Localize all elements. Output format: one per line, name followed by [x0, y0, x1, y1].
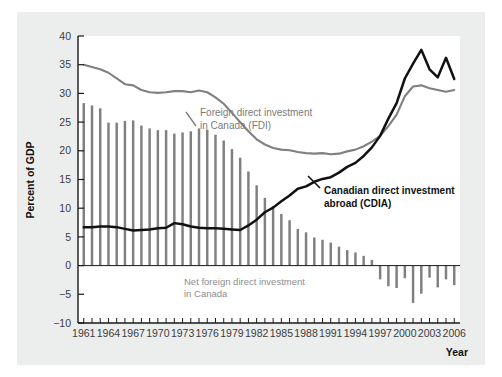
y-axis-tick-label: 35 — [59, 58, 71, 70]
net-fdi-bar — [115, 123, 117, 266]
net-fdi-bar — [330, 243, 332, 266]
net-fdi-bar — [255, 185, 257, 265]
net-fdi-bar — [404, 266, 406, 279]
net-fdi-bar — [412, 266, 414, 303]
net-fdi-bar — [173, 134, 175, 266]
net-fdi-bar — [445, 266, 447, 280]
x-axis-tick-label: 1961 — [72, 327, 96, 339]
net-fdi-bar — [395, 266, 397, 288]
chart-plot-wrapper: 4035302520151050−5−10 196119641967197019… — [0, 0, 502, 377]
x-axis-tick-label: 2006 — [443, 327, 467, 339]
fdi-annotation-line2: in Canada (FDI) — [200, 120, 271, 131]
net-fdi-bar — [206, 130, 208, 266]
net-fdi-bar — [124, 121, 126, 266]
x-axis-tick-label: 1967 — [121, 327, 145, 339]
x-axis-tick-label: 1994 — [344, 327, 368, 339]
y-axis-title: Percent of GDP — [24, 141, 36, 218]
net-fdi-bar — [157, 130, 159, 265]
y-axis-tick-label: 0 — [65, 259, 71, 271]
net-fdi-bar — [239, 158, 241, 266]
fdi-annotation-line1: Foreign direct investment — [200, 107, 312, 118]
net-fdi-bar — [272, 206, 274, 266]
y-axis-tick-label: 30 — [59, 87, 71, 99]
x-axis-tick-label: 2003 — [418, 327, 442, 339]
y-axis-tick-label: 25 — [59, 116, 71, 128]
cdia-annotation-line2: abroad (CDIA) — [324, 198, 391, 209]
x-axis-tick-label: 1976 — [196, 327, 220, 339]
net-fdi-bar — [297, 229, 299, 266]
net-fdi-bar — [338, 247, 340, 266]
figure-container: 4035302520151050−5−10 196119641967197019… — [0, 0, 502, 377]
x-axis-tick-label: 1979 — [220, 327, 244, 339]
net-fdi-bar — [264, 198, 266, 266]
x-axis-title: Year — [446, 346, 468, 358]
net-fdi-bar — [198, 128, 200, 265]
x-axis-tick-label: 1991 — [319, 327, 343, 339]
net-fdi-bar — [99, 108, 101, 265]
y-axis-tick-label: −5 — [59, 288, 71, 300]
net-fdi-annotation-line1: Net foreign direct investment — [184, 276, 305, 287]
net-fdi-bar — [453, 266, 455, 286]
net-fdi-bar — [321, 240, 323, 266]
net-fdi-bar — [437, 266, 439, 288]
y-axis-tick-labels: 4035302520151050−5−10 — [53, 30, 71, 329]
investment-chart: 4035302520151050−5−10 196119641967197019… — [0, 0, 502, 377]
net-fdi-bar — [214, 135, 216, 266]
y-axis-tick-label: 5 — [65, 231, 71, 243]
x-axis-tick-label: 2000 — [393, 327, 417, 339]
net-fdi-bar — [379, 266, 381, 280]
cdia-annotation-line1: Canadian direct investment — [324, 185, 455, 196]
x-axis-tick-label: 1982 — [245, 327, 269, 339]
net-fdi-bar — [280, 214, 282, 266]
net-fdi-bar — [387, 266, 389, 287]
net-fdi-bar — [420, 266, 422, 294]
net-fdi-bar — [288, 220, 290, 265]
x-axis-tick-label: 1964 — [97, 327, 121, 339]
x-axis-tick-labels: 1961196419671970197319761979198219851988… — [72, 327, 466, 339]
x-axis-tick-label: 1985 — [270, 327, 294, 339]
net-fdi-bar — [222, 140, 224, 265]
net-fdi-bar — [181, 132, 183, 265]
y-axis-tick-label: 15 — [59, 173, 71, 185]
net-fdi-bar — [247, 171, 249, 265]
net-fdi-bar — [140, 126, 142, 266]
net-fdi-bar — [428, 266, 430, 278]
x-axis-tick-label: 1997 — [368, 327, 392, 339]
y-axis-tick-label: 40 — [59, 30, 71, 42]
net-fdi-bar — [83, 103, 85, 265]
net-fdi-bar — [371, 260, 373, 266]
x-axis-tick-label: 1973 — [171, 327, 195, 339]
net-fdi-bar — [231, 149, 233, 266]
net-fdi-bar — [362, 256, 364, 266]
x-axis-tick-label: 1970 — [146, 327, 170, 339]
net-fdi-bar — [148, 128, 150, 265]
x-axis-tick-label: 1988 — [294, 327, 318, 339]
net-fdi-bar — [346, 250, 348, 266]
net-fdi-bar — [91, 105, 93, 265]
net-fdi-bar — [107, 123, 109, 266]
net-fdi-bar — [313, 237, 315, 265]
net-fdi-bar — [305, 232, 307, 265]
net-fdi-bar — [190, 131, 192, 265]
y-axis-tick-label: 20 — [59, 144, 71, 156]
net-fdi-bar — [132, 120, 134, 265]
net-fdi-annotation-line2: in Canada — [184, 288, 228, 299]
y-axis-tick-label: −10 — [53, 317, 71, 329]
net-fdi-bar — [354, 252, 356, 265]
net-fdi-bar — [165, 130, 167, 265]
y-axis-tick-label: 10 — [59, 202, 71, 214]
